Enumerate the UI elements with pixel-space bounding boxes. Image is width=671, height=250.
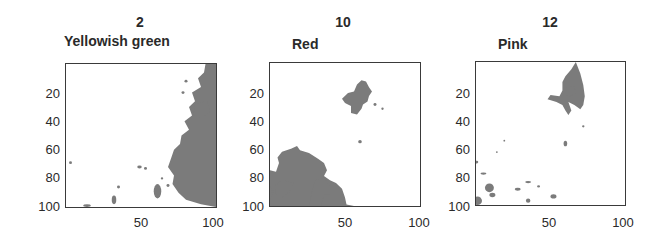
panel-number: 12	[538, 14, 562, 30]
mask-image	[476, 62, 625, 205]
y-tick-label: 20	[440, 86, 470, 101]
mask-plot	[475, 61, 626, 206]
x-tick-label: 100	[606, 215, 640, 230]
y-tick-label: 40	[440, 114, 470, 129]
x-tick-label: 50	[532, 215, 566, 230]
panel-pink: 12 Pink 20 40 60 80 100 50 100	[0, 0, 671, 250]
y-tick-label: 60	[440, 142, 470, 157]
panel-color-name: Pink	[498, 36, 528, 52]
y-tick-label: 100	[440, 199, 470, 214]
y-tick-label: 80	[440, 170, 470, 185]
